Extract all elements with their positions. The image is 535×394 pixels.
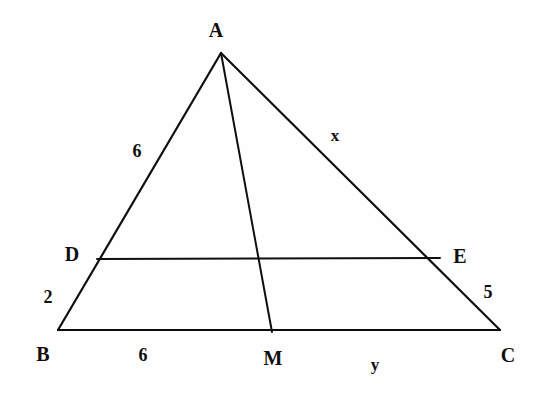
side-AC (221, 53, 500, 330)
length-label-BM: 6 (139, 346, 148, 364)
geometry-diagram: A B C D E M 6 2 6 5 x y (0, 0, 535, 394)
segment-DE (97, 258, 440, 259)
vertex-label-E: E (453, 246, 466, 266)
vertex-label-M: M (264, 348, 283, 368)
variable-label-x: x (331, 127, 340, 144)
vertex-label-B: B (36, 344, 49, 364)
vertex-label-D: D (65, 244, 79, 264)
side-AB (58, 53, 221, 330)
triangle-figure (0, 0, 535, 394)
length-label-AD: 6 (133, 142, 142, 160)
vertex-label-A: A (209, 20, 223, 40)
length-label-DB: 2 (44, 288, 53, 306)
variable-label-y: y (371, 356, 380, 373)
vertex-label-C: C (501, 345, 515, 365)
length-label-EC: 5 (484, 283, 493, 301)
